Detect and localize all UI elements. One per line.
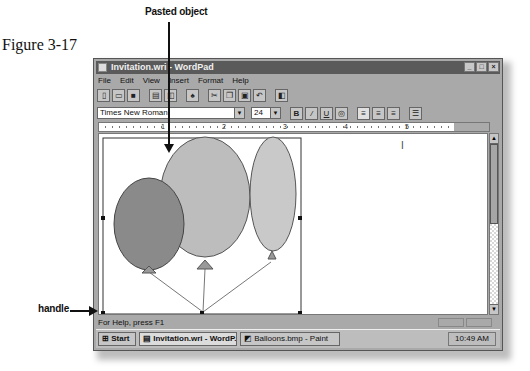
bullets-icon[interactable]: ☰ [409, 107, 422, 120]
wordpad-icon [98, 63, 107, 72]
ruler-number: 5 [405, 123, 409, 131]
font-size-value: 24 [254, 108, 263, 117]
title-bar[interactable]: Invitation.wri - WordPad _ □ × [96, 61, 500, 74]
format-bar: Times New Roman ▼ 24 ▼ B / U ◎ ≡ ≡ ≡ ☰ [97, 106, 422, 120]
align-left-icon[interactable]: ≡ [357, 107, 370, 120]
arrow-down-icon [164, 144, 174, 153]
vertical-scrollbar[interactable]: ▲ ▼ [489, 133, 499, 315]
menu-bar: File Edit View Insert Format Help [98, 75, 249, 87]
print-icon[interactable]: ▤ [149, 89, 162, 102]
align-center-icon[interactable]: ≡ [372, 107, 385, 120]
menu-view[interactable]: View [143, 75, 160, 87]
menu-help[interactable]: Help [232, 75, 248, 87]
scroll-thumb[interactable] [490, 144, 498, 224]
ruler-number: 3 [283, 123, 287, 131]
font-name-value: Times New Roman [100, 108, 168, 117]
balloon-string [203, 269, 205, 312]
balloon-knot [268, 251, 276, 259]
paste-icon[interactable]: ▣ [238, 89, 251, 102]
maximize-button[interactable]: □ [476, 62, 487, 72]
balloon-left [114, 178, 184, 270]
italic-button[interactable]: / [305, 107, 318, 120]
standard-toolbar: ▯ ▭ ■ ▤ ◫ ♠ ✂ ❐ ▣ ↶ ◧ [97, 89, 288, 104]
print-preview-icon[interactable]: ◫ [164, 89, 177, 102]
status-cell [438, 318, 464, 327]
ruler-number: 4 [344, 123, 348, 131]
save-icon[interactable]: ■ [127, 89, 140, 102]
status-text: For Help, press F1 [98, 318, 164, 327]
taskbar-item-wordpad[interactable]: ▤ Invitation.wri - WordP... [139, 332, 237, 346]
minimize-button[interactable]: _ [464, 62, 475, 72]
bold-button[interactable]: B [290, 107, 303, 120]
font-name-select[interactable]: Times New Roman ▼ [97, 107, 245, 119]
wordpad-icon: ▤ [143, 334, 153, 343]
document-area[interactable]: I [98, 133, 488, 315]
ruler-ticks [99, 126, 453, 128]
taskbar: ⊞ Start ▤ Invitation.wri - WordP... ◩ Ba… [96, 329, 500, 348]
copy-icon[interactable]: ❐ [223, 89, 236, 102]
ruler-margin [454, 123, 489, 131]
new-icon[interactable]: ▯ [97, 89, 110, 102]
resize-handle [298, 311, 302, 315]
status-cell [466, 318, 492, 327]
color-icon[interactable]: ◎ [335, 107, 348, 120]
windows-logo-icon: ⊞ [102, 334, 109, 343]
pasted-object[interactable] [99, 134, 488, 315]
date-time-icon[interactable]: ◧ [275, 89, 288, 102]
callout-pointer-line [168, 22, 170, 148]
ruler-number: 1 [161, 123, 165, 131]
chevron-down-icon[interactable]: ▼ [270, 108, 280, 118]
arrow-right-icon [89, 306, 98, 316]
font-size-select[interactable]: 24 ▼ [251, 107, 281, 119]
ruler[interactable]: 1 2 3 4 5 [98, 122, 490, 132]
menu-format[interactable]: Format [198, 75, 223, 87]
resize-handle [101, 311, 105, 315]
ruler-number: 2 [222, 123, 226, 131]
taskbar-item-paint[interactable]: ◩ Balloons.bmp - Paint [240, 332, 340, 346]
balloon-right [250, 137, 296, 251]
scroll-down-icon[interactable]: ▼ [490, 304, 498, 314]
resize-handle [298, 216, 302, 220]
close-button[interactable]: × [488, 62, 499, 72]
figure-label: Figure 3-17 [2, 36, 77, 54]
menu-edit[interactable]: Edit [120, 75, 134, 87]
wordpad-window: Invitation.wri - WordPad _ □ × File Edit… [93, 58, 503, 351]
chevron-down-icon[interactable]: ▼ [234, 108, 244, 118]
paint-icon: ◩ [244, 334, 254, 343]
open-icon[interactable]: ▭ [112, 89, 125, 102]
balloon-string [149, 272, 203, 312]
taskbar-clock: 10:49 AM [448, 332, 496, 346]
resize-handle [101, 216, 105, 220]
underline-button[interactable]: U [320, 107, 333, 120]
align-right-icon[interactable]: ≡ [387, 107, 400, 120]
window-title: Invitation.wri - WordPad [111, 61, 214, 74]
resize-handle [200, 311, 204, 315]
menu-insert[interactable]: Insert [169, 75, 189, 87]
balloon-knot [197, 260, 213, 269]
scroll-up-icon[interactable]: ▲ [490, 134, 498, 144]
status-bar: For Help, press F1 [98, 317, 496, 328]
callout-pasted-object: Pasted object [145, 6, 207, 17]
cut-icon[interactable]: ✂ [208, 89, 221, 102]
callout-handle: handle [38, 303, 69, 314]
start-button[interactable]: ⊞ Start [98, 332, 136, 346]
menu-file[interactable]: File [98, 75, 111, 87]
find-icon[interactable]: ♠ [186, 89, 199, 102]
text-cursor-icon: I [401, 140, 404, 151]
undo-icon[interactable]: ↶ [253, 89, 266, 102]
